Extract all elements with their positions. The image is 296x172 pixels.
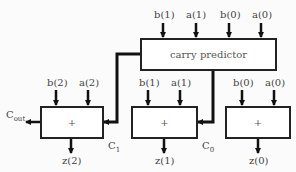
- adder-1: +: [131, 106, 198, 139]
- carry-predictor-diagram: b(1) a(1) b(0) a(0) carry predictor b(2)…: [0, 0, 296, 172]
- predictor-input-b0: b(0): [220, 10, 241, 20]
- adder1-input-a1: a(1): [171, 78, 191, 88]
- adder2-input-a2: a(2): [79, 78, 99, 88]
- adder1-input-b1: b(1): [139, 78, 160, 88]
- adder-2-op: +: [68, 117, 76, 128]
- cout-label: Cout: [6, 110, 25, 124]
- predictor-input-a0: a(0): [252, 10, 272, 20]
- predictor-input-a1: a(1): [186, 10, 206, 20]
- adder-0: +: [225, 106, 291, 139]
- adder2-input-b2: b(2): [47, 78, 68, 88]
- adder0-input-a0: a(0): [265, 78, 285, 88]
- carry-predictor-label: carry predictor: [170, 49, 247, 60]
- adder2-output-z2: z(2): [62, 156, 81, 166]
- adder0-output-z0: z(0): [249, 156, 268, 166]
- adder-2: +: [40, 106, 104, 139]
- adder1-output-z1: z(1): [155, 156, 174, 166]
- c0-label: C0: [202, 141, 214, 155]
- carry-predictor-block: carry predictor: [140, 38, 277, 71]
- predictor-input-b1: b(1): [154, 10, 175, 20]
- adder-1-op: +: [160, 117, 168, 128]
- adder0-input-b0: b(0): [233, 78, 254, 88]
- adder-0-op: +: [254, 117, 262, 128]
- c1-label: C1: [108, 141, 120, 155]
